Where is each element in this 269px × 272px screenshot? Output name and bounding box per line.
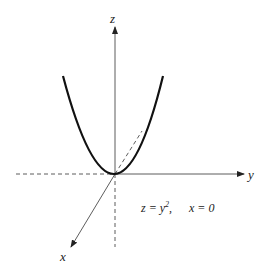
equation-lhs: z = y <box>140 201 166 215</box>
x-axis <box>71 174 115 247</box>
x-axis-label: x <box>59 249 66 264</box>
equation-condition: x = 0 <box>188 201 214 215</box>
parabola-curve <box>63 76 163 174</box>
z-axis-label: z <box>109 11 115 26</box>
parabola-diagram: z y x z = y2, x = 0 <box>0 0 269 272</box>
equation-separator: , <box>169 201 172 215</box>
y-axis-label: y <box>246 167 254 182</box>
equation-label: z = y2, x = 0 <box>140 200 214 215</box>
